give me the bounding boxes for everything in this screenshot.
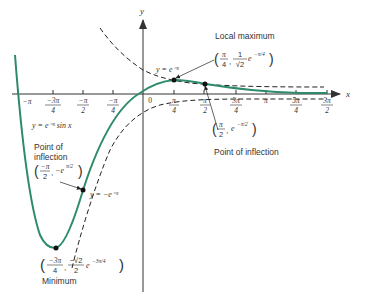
svg-text:(: ( <box>212 121 217 137</box>
svg-text:−π: −π <box>41 162 50 171</box>
tick-label: −π <box>23 97 32 106</box>
svg-text:(: ( <box>214 51 219 67</box>
tick-label: π <box>264 96 268 105</box>
x-axis-label: x <box>345 89 350 99</box>
right-inflection-coords: ( π 2 , e −π/2 ) <box>212 120 257 139</box>
minimum-point <box>54 246 59 251</box>
svg-text:,: , <box>226 126 228 135</box>
svg-text:−e: −e <box>55 166 64 175</box>
right-inflection-point <box>203 82 208 87</box>
tick-label: 0 <box>148 96 152 105</box>
svg-text:−3π: −3π <box>49 256 62 265</box>
svg-text:2: 2 <box>43 172 47 181</box>
tick-label: 2 <box>203 106 207 115</box>
tick-label: −π <box>79 96 88 105</box>
tick-label: −3π <box>47 96 60 105</box>
tick-label: 4 <box>51 106 55 115</box>
tick-label: 4 <box>294 106 298 115</box>
svg-text:−π/2: −π/2 <box>237 121 248 127</box>
right-inflection-title: Point of inflection <box>214 147 279 157</box>
svg-text:2: 2 <box>74 266 78 275</box>
svg-text:π/2: π/2 <box>66 163 73 169</box>
svg-text:−3π/4: −3π/4 <box>92 258 106 264</box>
svg-text:e: e <box>248 54 252 63</box>
svg-text:2: 2 <box>219 130 223 139</box>
svg-text:4: 4 <box>53 266 57 275</box>
local-max-title: Local maximum <box>215 31 275 41</box>
lower-envelope-label: y = −e⁻ˣ <box>89 190 119 199</box>
tick-label: −π <box>109 96 118 105</box>
left-inflection-coords: ( −π 2 , −e π/2 ) <box>34 162 83 181</box>
svg-text:,: , <box>64 263 66 272</box>
svg-text:,: , <box>229 57 231 66</box>
minimum-title: Minimum <box>42 276 76 286</box>
tick-label: 2 <box>325 106 329 115</box>
minimum-coords: ( −3π 4 , −√2 2 e −3π/4 ) <box>40 256 124 275</box>
y-axis-label: y <box>139 6 144 16</box>
left-inflection-point <box>81 188 86 193</box>
tick-label: 4 <box>234 106 238 115</box>
tick-label: π <box>172 96 176 105</box>
svg-text:1: 1 <box>238 50 242 59</box>
exp-sin-diagram: x y −π −3π 4 −π 2 −π 4 0 π 4 π 2 3π <box>0 0 374 294</box>
svg-text:−√2: −√2 <box>70 256 83 265</box>
left-inflection-title-2: inflection <box>34 152 68 162</box>
upper-envelope-curve <box>100 28 320 87</box>
tick-label: 4 <box>111 106 115 115</box>
svg-text:4: 4 <box>222 60 226 69</box>
svg-text:e: e <box>86 261 90 270</box>
tick-label: 5π <box>292 96 300 105</box>
tick-label: 4 <box>172 106 176 115</box>
tick-label: 2 <box>81 106 85 115</box>
x-tick-labels: −π −3π 4 −π 2 −π 4 0 π 4 π 2 3π 4 π 5π 4… <box>23 96 333 115</box>
left-inflection-title-1: Point of <box>34 142 63 152</box>
left-inflection-pointer <box>60 182 81 189</box>
tick-label: 3π <box>322 96 331 105</box>
tick-label: π <box>203 96 207 105</box>
svg-text:−π/4: −π/4 <box>254 51 265 57</box>
svg-text:): ) <box>269 51 274 67</box>
local-max-coords: ( π 4 , 1 √2 e −π/4 ) <box>214 50 274 69</box>
svg-text:√2: √2 <box>236 60 244 69</box>
svg-text:e: e <box>231 124 235 133</box>
svg-text:): ) <box>78 163 83 179</box>
upper-envelope-label: y = e⁻ˣ <box>155 65 180 74</box>
svg-text:): ) <box>119 256 124 273</box>
svg-text:π: π <box>219 120 223 129</box>
svg-text:,: , <box>51 168 53 177</box>
svg-text:): ) <box>252 121 257 137</box>
svg-text:(: ( <box>34 163 39 179</box>
svg-text:(: ( <box>40 256 45 273</box>
local-max-pointer <box>176 60 214 78</box>
tick-label: 3π <box>231 96 240 105</box>
svg-text:π: π <box>222 50 226 59</box>
local-max-point <box>172 78 177 83</box>
main-curve-label: y = e⁻ˣ sin x <box>31 121 72 130</box>
